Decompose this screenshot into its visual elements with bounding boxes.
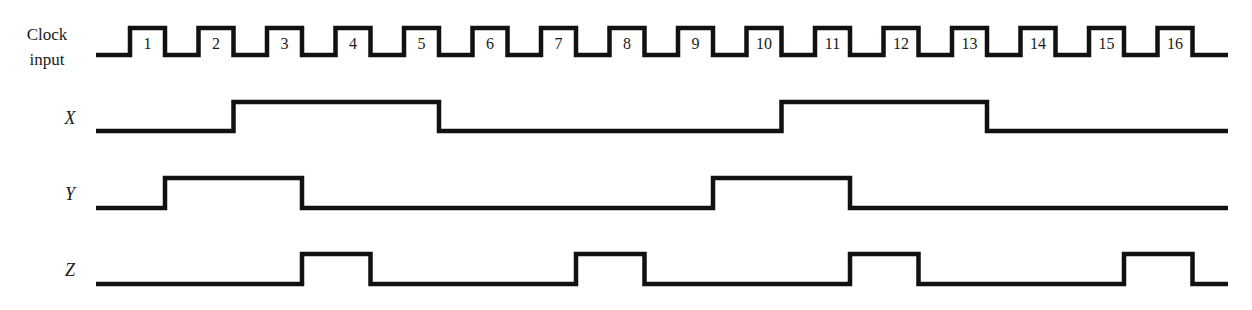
clock-waveform	[96, 28, 1228, 55]
clock-input-label: Clock input	[18, 22, 76, 72]
z-signal-label: Z	[60, 261, 80, 279]
clock-pulse-number: 14	[1023, 35, 1053, 53]
clock-pulse-number: 13	[955, 35, 985, 53]
clock-pulse-number: 5	[407, 35, 437, 53]
clock-pulse-number: 2	[201, 35, 231, 53]
clock-pulse-number: 8	[612, 35, 642, 53]
clock-pulse-number: 10	[749, 35, 779, 53]
clock-pulse-number: 7	[544, 35, 574, 53]
clock-pulse-number: 4	[338, 35, 368, 53]
clock-pulse-number: 12	[886, 35, 916, 53]
y-waveform	[96, 178, 1228, 208]
y-signal-label: Y	[60, 185, 80, 203]
clock-label-line1: Clock	[18, 22, 76, 47]
timing-diagram: Clock input X Y Z 1234567891011121314151…	[0, 0, 1252, 310]
x-waveform	[96, 102, 1228, 131]
clock-pulse-number: 6	[475, 35, 505, 53]
clock-pulse-number: 1	[133, 35, 163, 53]
clock-pulse-number: 11	[818, 35, 848, 53]
z-waveform	[96, 254, 1228, 284]
clock-pulse-number: 15	[1092, 35, 1122, 53]
clock-label-line2: input	[18, 47, 76, 72]
clock-pulse-number: 16	[1160, 35, 1190, 53]
clock-pulse-number: 3	[270, 35, 300, 53]
clock-pulse-number: 9	[681, 35, 711, 53]
x-signal-label: X	[60, 109, 80, 127]
